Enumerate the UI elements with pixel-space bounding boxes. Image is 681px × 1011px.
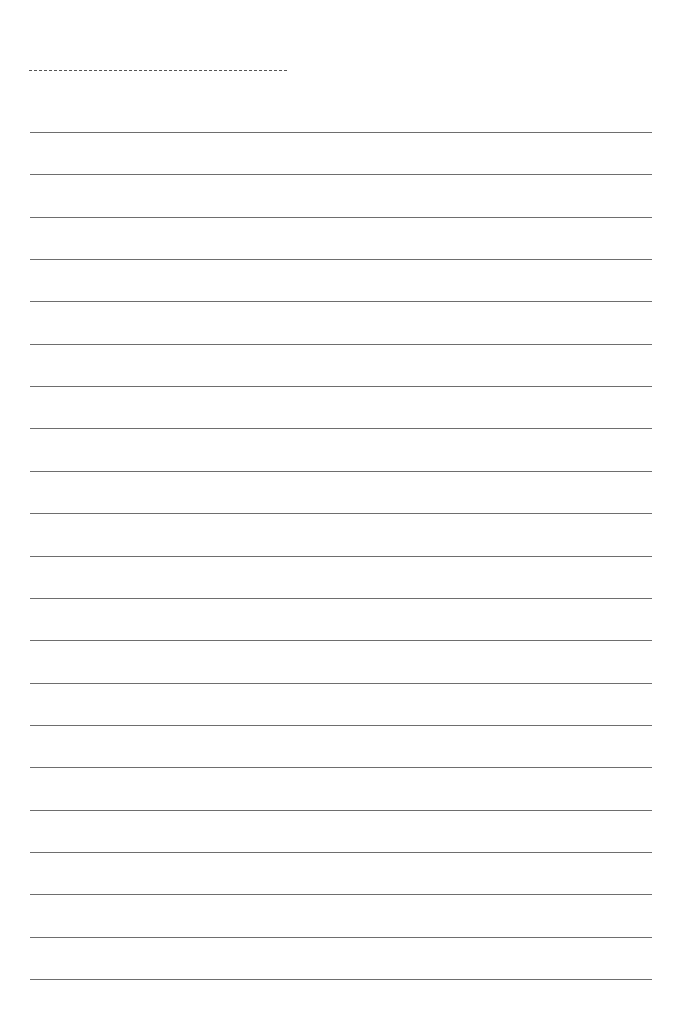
writing-line[interactable]	[30, 174, 652, 175]
writing-line[interactable]	[30, 725, 652, 726]
writing-line[interactable]	[30, 810, 652, 811]
writing-line[interactable]	[30, 513, 652, 514]
writing-line[interactable]	[30, 598, 652, 599]
writing-line[interactable]	[30, 301, 652, 302]
writing-line[interactable]	[30, 683, 652, 684]
name-line-dashed[interactable]	[29, 70, 287, 71]
writing-line[interactable]	[30, 894, 652, 895]
writing-line[interactable]	[30, 386, 652, 387]
writing-line[interactable]	[30, 979, 652, 980]
writing-line[interactable]	[30, 428, 652, 429]
writing-line[interactable]	[30, 132, 652, 133]
writing-line[interactable]	[30, 217, 652, 218]
writing-line[interactable]	[30, 259, 652, 260]
writing-line[interactable]	[30, 767, 652, 768]
writing-line[interactable]	[30, 937, 652, 938]
writing-line[interactable]	[30, 852, 652, 853]
writing-line[interactable]	[30, 344, 652, 345]
writing-line[interactable]	[30, 556, 652, 557]
writing-line[interactable]	[30, 471, 652, 472]
writing-line[interactable]	[30, 640, 652, 641]
